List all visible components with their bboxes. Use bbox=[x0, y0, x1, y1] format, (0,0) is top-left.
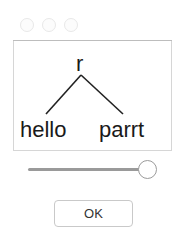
slider-thumb[interactable] bbox=[138, 160, 157, 179]
tree-node-child: hello bbox=[20, 119, 66, 141]
tree-node-root: r bbox=[76, 53, 83, 75]
tree-node-child: parrt bbox=[99, 119, 144, 141]
ok-button[interactable]: OK bbox=[54, 200, 133, 227]
edge-root-hello bbox=[46, 75, 81, 114]
zoom-button[interactable] bbox=[64, 18, 78, 32]
tree-canvas: r hello parrt bbox=[13, 41, 172, 151]
minimize-button[interactable] bbox=[42, 18, 56, 32]
zoom-slider[interactable] bbox=[28, 160, 158, 180]
window-controls bbox=[20, 18, 78, 32]
slider-track[interactable] bbox=[28, 168, 140, 171]
close-button[interactable] bbox=[20, 18, 34, 32]
edge-root-parrt bbox=[81, 75, 123, 114]
